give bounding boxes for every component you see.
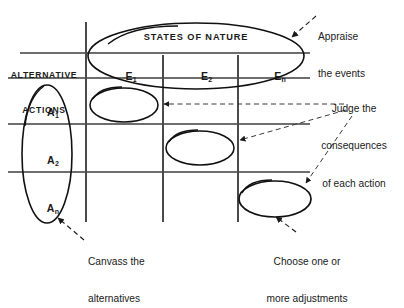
leader-appraise (292, 16, 316, 37)
column-label-en-sub: n (282, 76, 286, 83)
annotation-judge-line-1: Judge the (304, 103, 404, 115)
column-label-e2: E2 (164, 58, 237, 95)
row-label-a2-sub: 2 (55, 160, 59, 167)
row-label-a2: A2 (22, 142, 72, 179)
cell-ellipse-a2e2 (166, 130, 234, 165)
column-label-e2-sub: 2 (208, 76, 212, 83)
column-label-e2-base: E (201, 70, 208, 82)
annotation-choose: Choose one or more adjustments (232, 231, 382, 308)
leader-choose (276, 217, 296, 232)
row-label-an-base: A (47, 202, 55, 214)
adjustment-ellipse (239, 180, 311, 217)
annotation-canvass-line-2: alternatives (88, 293, 198, 305)
row-label-a1: A1 (22, 94, 72, 131)
annotation-canvass-line-1: Canvass the (88, 256, 198, 268)
annotation-choose-line-2: more adjustments (232, 293, 382, 305)
annotation-choose-line-1: Choose one or (232, 256, 382, 268)
row-label-a2-base: A (47, 154, 55, 166)
column-label-e1: E1 (88, 58, 162, 95)
table-grid-verticals (86, 22, 238, 222)
column-label-en-base: E (274, 70, 281, 82)
row-label-an-sub: n (55, 208, 59, 215)
annotation-canvass: Canvass the alternatives (88, 231, 198, 308)
states-of-nature-title: STATES OF NATURE (105, 32, 287, 43)
side-label-line-1: ALTERNATIVE (6, 70, 82, 82)
annotation-judge-line-3: of each action (304, 178, 404, 190)
column-label-e1-sub: 1 (133, 76, 137, 83)
row-label-a1-base: A (47, 106, 55, 118)
row-label-an: An (22, 190, 72, 227)
annotation-appraise-line-1: Appraise (318, 31, 404, 43)
annotation-judge-line-2: consequences (304, 140, 404, 152)
column-label-e1-base: E (125, 70, 132, 82)
annotation-judge: Judge the consequences of each action (304, 78, 404, 215)
column-label-en: En (239, 58, 309, 95)
row-label-a1-sub: 1 (55, 112, 59, 119)
